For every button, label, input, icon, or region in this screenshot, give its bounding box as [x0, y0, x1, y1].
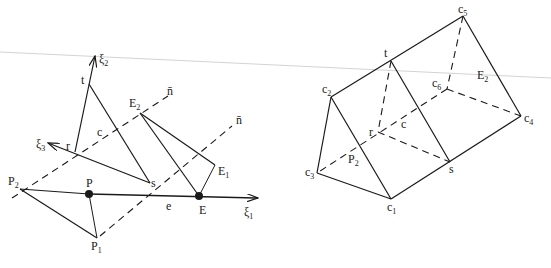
xi2-axis	[75, 56, 95, 152]
label-P: P	[86, 176, 93, 190]
point-E-dot	[195, 192, 203, 200]
label-c2: c2	[322, 82, 331, 98]
right-diagram: c5 t c2 c6 E2 c4 r c P2 c3 s c1	[305, 2, 533, 216]
edge-c6-c3-hidden	[317, 89, 447, 173]
label-c3: c3	[305, 165, 314, 181]
label-E2: E2	[129, 96, 140, 112]
edge-t-r-hidden	[378, 61, 391, 132]
label-c5: c5	[458, 2, 467, 18]
left-diagram: ξ2 ξ3 ξ1 t r s c E2 E1 E P P2 P1 e n̄ n̄	[8, 52, 258, 255]
label-c6: c6	[432, 76, 441, 92]
edge-E2-E1	[140, 113, 215, 165]
edge-c4-c1	[391, 116, 521, 199]
figure-canvas: ξ2 ξ3 ξ1 t r s c E2 E1 E P P2 P1 e n̄ n̄…	[0, 0, 551, 268]
edge-P2-P	[20, 189, 89, 194]
label-E1: E1	[218, 164, 229, 180]
edge-P2-P1	[20, 189, 97, 238]
edge-c5-c4	[463, 16, 521, 116]
edge-P-P1	[89, 194, 97, 238]
edge-r-s-hidden	[378, 132, 450, 162]
label-P2: P2	[8, 174, 19, 190]
label-t-right: t	[384, 46, 388, 60]
label-r: r	[66, 139, 70, 153]
edge-c3-c1	[317, 173, 391, 199]
label-c-right: c	[401, 117, 406, 131]
label-s-right: s	[449, 162, 454, 176]
edge-c5-c6-hidden	[447, 16, 463, 89]
label-e: e	[166, 199, 171, 213]
label-n-bar-upper: n̄	[167, 84, 173, 98]
label-xi3: ξ3	[36, 137, 45, 153]
label-E2-right: E2	[477, 68, 488, 84]
xi3-axis	[48, 143, 150, 183]
label-c: c	[97, 125, 102, 139]
edge-c2-c5	[331, 16, 463, 97]
edge-c6-c4-hidden	[447, 89, 521, 116]
edge-E2-E	[140, 113, 199, 196]
label-t: t	[81, 73, 85, 87]
label-n-bar-lower: n̄	[236, 113, 242, 127]
label-c4: c4	[524, 111, 533, 127]
label-c1: c1	[387, 200, 396, 216]
xi1-axis	[89, 194, 258, 198]
plane-line-lower	[100, 126, 232, 236]
point-P-dot	[85, 190, 93, 198]
edge-c2-c3	[317, 97, 331, 173]
label-E: E	[199, 203, 206, 217]
edge-E1-E	[199, 165, 215, 196]
label-s: s	[151, 176, 156, 190]
label-xi2: ξ2	[99, 52, 108, 68]
label-P1: P1	[91, 239, 102, 255]
label-r-right: r	[369, 125, 373, 139]
edge-t-s	[391, 61, 450, 162]
label-P2-right: P2	[348, 152, 359, 168]
label-xi1: ξ1	[244, 205, 253, 221]
